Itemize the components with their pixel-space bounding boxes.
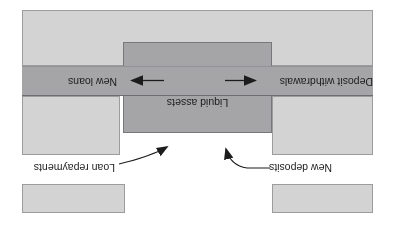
- deposit-withdrawals-label: Deposit withdrawals: [270, 76, 373, 88]
- scanned-page: Deposit withdrawals New loans Liquid ass…: [0, 0, 396, 226]
- liquid-assets-label: Liquid assets: [123, 97, 272, 109]
- loan-repayments-label: Loan repayments: [34, 162, 115, 174]
- new-loans-label: New loans: [68, 76, 117, 88]
- loan-repayments-arrow: [119, 147, 167, 164]
- arrows-layer: [0, 0, 396, 226]
- new-deposits-arrow: [226, 149, 270, 168]
- new-deposits-label: New deposits: [269, 162, 332, 174]
- bank-liquidity-diagram: Deposit withdrawals New loans Liquid ass…: [0, 0, 396, 226]
